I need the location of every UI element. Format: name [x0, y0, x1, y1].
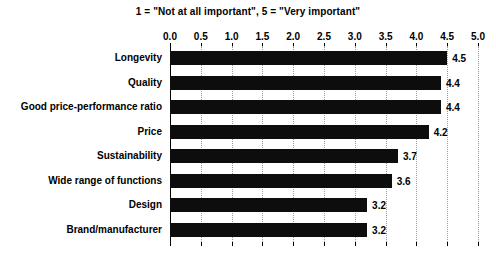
bar	[170, 100, 441, 114]
tick-mark	[416, 242, 417, 246]
x-tick-label: 2.0	[286, 31, 300, 42]
x-tick-label: 1.5	[255, 31, 269, 42]
bar-row: 4.2	[170, 125, 478, 139]
bar-value-label: 3.6	[397, 175, 411, 186]
category-label: Wide range of functions	[0, 175, 166, 186]
bar-value-label: 3.2	[372, 200, 386, 211]
tick-mark	[232, 242, 233, 246]
category-label: Good price-performance ratio	[0, 101, 166, 112]
bar	[170, 223, 367, 237]
category-label: Sustainability	[0, 150, 166, 161]
bar	[170, 198, 367, 212]
bar-row: 3.2	[170, 198, 478, 212]
bar-chart-figure: 1 = "Not at all important", 5 = "Very im…	[0, 0, 496, 255]
category-label: Longevity	[0, 52, 166, 63]
plot-area: 4.54.44.44.23.73.63.23.2	[170, 46, 478, 242]
bar	[170, 76, 441, 90]
bar	[170, 149, 398, 163]
x-tick-label: 4.5	[440, 31, 454, 42]
x-tick-label: 5.0	[471, 31, 485, 42]
bar	[170, 51, 447, 65]
bar-row: 4.5	[170, 51, 478, 65]
x-tick-label: 0.5	[194, 31, 208, 42]
x-tick-label: 2.5	[317, 31, 331, 42]
category-axis-labels: LongevityQualityGood price-performance r…	[0, 46, 166, 242]
bar-value-label: 3.2	[372, 224, 386, 235]
bar	[170, 174, 392, 188]
x-tick-label: 3.0	[348, 31, 362, 42]
tick-mark	[262, 242, 263, 246]
bar-row: 3.6	[170, 174, 478, 188]
tick-mark	[201, 242, 202, 246]
bar-row: 4.4	[170, 100, 478, 114]
category-label: Design	[0, 199, 166, 210]
x-tick-label: 0.0	[163, 31, 177, 42]
x-tick-label: 3.5	[379, 31, 393, 42]
bar-value-label: 4.4	[446, 102, 460, 113]
bar-value-label: 3.7	[403, 151, 417, 162]
category-label: Price	[0, 126, 166, 137]
category-label: Quality	[0, 77, 166, 88]
x-axis-bottom-tickmarks	[170, 242, 478, 246]
bar-row: 3.7	[170, 149, 478, 163]
bar-row: 3.2	[170, 223, 478, 237]
tick-mark	[324, 242, 325, 246]
chart-title: 1 = "Not at all important", 5 = "Very im…	[0, 6, 496, 17]
x-tick-label: 1.0	[225, 31, 239, 42]
x-tick-label: 4.0	[409, 31, 423, 42]
bars-layer: 4.54.44.44.23.73.63.23.2	[170, 46, 478, 242]
tick-mark	[355, 242, 356, 246]
tick-mark	[293, 242, 294, 246]
gridline	[478, 46, 479, 242]
bar-row: 4.4	[170, 76, 478, 90]
bar	[170, 125, 429, 139]
category-label: Brand/manufacturer	[0, 224, 166, 235]
tick-mark	[386, 242, 387, 246]
tick-mark	[170, 242, 171, 246]
tick-mark	[447, 242, 448, 246]
bar-value-label: 4.2	[434, 126, 448, 137]
bar-value-label: 4.5	[452, 53, 466, 64]
tick-mark	[478, 242, 479, 246]
x-axis-tick-labels: 0.00.51.01.52.02.53.03.54.04.55.0	[0, 31, 496, 43]
bar-value-label: 4.4	[446, 77, 460, 88]
